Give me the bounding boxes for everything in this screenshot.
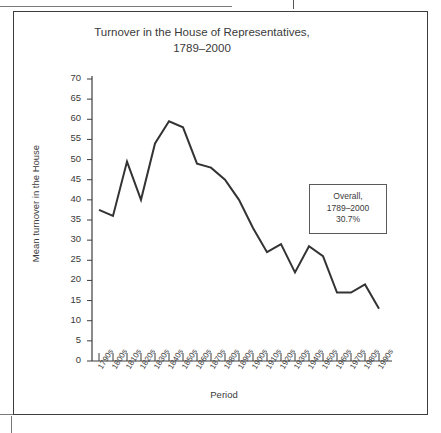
y-axis-tick-label: 55	[55, 132, 81, 143]
page-scan-rule-top	[0, 6, 232, 7]
y-axis-tick-label: 5	[55, 334, 81, 345]
y-axis-tick-label: 45	[55, 173, 81, 184]
y-axis-tick-label: 20	[55, 273, 81, 284]
y-axis-tick-label: 35	[55, 213, 81, 224]
y-axis-tick-label: 50	[55, 153, 81, 164]
y-axis-tick-label: 25	[55, 253, 81, 264]
y-axis-tick-label: 0	[55, 354, 81, 365]
y-axis-tick-label: 10	[55, 314, 81, 325]
y-axis-tick-label: 70	[55, 72, 81, 83]
page-scan-mark-top	[293, 0, 294, 9]
y-axis-tick-label: 15	[55, 294, 81, 305]
figure-frame: Turnover in the House of Representatives…	[13, 11, 428, 415]
page-scan-mark-bottom	[11, 416, 12, 433]
y-axis-title: Mean turnover in the House	[30, 139, 41, 269]
x-axis-title: Period	[164, 389, 284, 400]
y-axis-tick-label: 60	[55, 112, 81, 123]
overall-annotation-box: Overall, 1789–2000 30.7%	[309, 184, 387, 234]
y-axis-tick-label: 30	[55, 233, 81, 244]
y-axis-tick-label: 65	[55, 92, 81, 103]
y-axis-tick-label: 40	[55, 193, 81, 204]
